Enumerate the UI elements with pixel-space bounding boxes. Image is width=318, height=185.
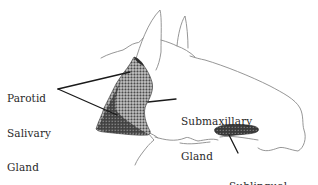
parotid-gland-label: Parotid Salivary Gland: [7, 70, 51, 185]
parotid-label-line2: Salivary: [7, 128, 51, 140]
diagram-canvas: Parotid Salivary Gland Submaxillary Glan…: [0, 0, 318, 185]
submaxillary-leader: [148, 99, 176, 102]
parotid-label-line1: Parotid: [7, 93, 51, 105]
submaxillary-label-line1: Submaxillary: [181, 116, 252, 128]
right-ear-outline: [161, 16, 188, 48]
sublingual-gland-label: Sublingual Salivary Gland: [229, 158, 309, 185]
sublingual-label-line1: Sublingual: [229, 181, 309, 185]
neck-outline: [135, 132, 154, 165]
parotid-label-line3: Gland: [7, 162, 51, 174]
